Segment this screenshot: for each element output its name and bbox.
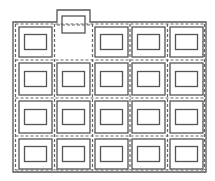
sleeve-pocket bbox=[95, 63, 128, 95]
pocket-window-rect bbox=[138, 72, 160, 87]
sleeve-pocket bbox=[57, 63, 90, 95]
pocket-window-rect bbox=[138, 147, 160, 162]
pocket-window-rect bbox=[63, 72, 85, 87]
sleeve-pocket bbox=[19, 101, 52, 133]
sleeve-diagram bbox=[0, 0, 215, 181]
sleeve-pocket bbox=[95, 27, 128, 57]
sleeve-pocket bbox=[132, 101, 165, 133]
sleeve-pocket bbox=[19, 27, 52, 57]
pocket-window-rect bbox=[138, 35, 160, 50]
pocket-window-rect bbox=[63, 110, 85, 125]
pocket-window-rect bbox=[25, 72, 47, 87]
sleeve-pocket bbox=[170, 63, 203, 95]
sleeve-pocket bbox=[132, 63, 165, 95]
sleeve-pocket bbox=[95, 139, 128, 169]
sleeve-pocket bbox=[170, 27, 203, 57]
sleeve-pocket bbox=[132, 27, 165, 57]
pocket-window-rect bbox=[101, 72, 123, 87]
sleeve-pocket bbox=[19, 63, 52, 95]
pocket-window-rect bbox=[101, 35, 123, 50]
pocket-window-rect bbox=[25, 110, 47, 125]
pocket-window-rect bbox=[101, 147, 123, 162]
pocket-window-rect bbox=[176, 72, 198, 87]
sleeve-pocket bbox=[19, 139, 52, 169]
sleeve-pocket bbox=[132, 139, 165, 169]
sleeve-pocket bbox=[95, 101, 128, 133]
pocket-window-rect bbox=[176, 110, 198, 125]
pocket-window-rect bbox=[176, 35, 198, 50]
pocket-window-rect bbox=[101, 110, 123, 125]
pocket-window-rect bbox=[138, 110, 160, 125]
pocket-window-rect bbox=[176, 147, 198, 162]
sleeve-pocket bbox=[170, 101, 203, 133]
sleeve-pocket bbox=[57, 139, 90, 169]
pocket-window-rect bbox=[63, 147, 85, 162]
sleeve-pocket bbox=[57, 101, 90, 133]
pocket-window-rect bbox=[25, 147, 47, 162]
sleeve-pocket bbox=[170, 139, 203, 169]
pocket-window-rect bbox=[25, 35, 47, 50]
